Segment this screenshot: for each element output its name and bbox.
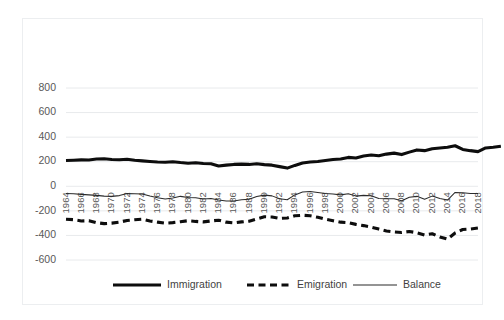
x-tick-2000: 2000 xyxy=(334,192,345,213)
x-tick-2018: 2018 xyxy=(472,192,483,213)
x-tick-1992: 1992 xyxy=(273,192,284,213)
y-tick--400: -400 xyxy=(35,228,56,240)
x-tick-1976: 1976 xyxy=(151,192,162,213)
x-tick-1996: 1996 xyxy=(304,192,315,213)
x-tick-2006: 2006 xyxy=(380,192,391,213)
y-gridlines xyxy=(66,88,478,260)
legend-label-immigration: Immigration xyxy=(167,278,222,290)
y-tick-800: 800 xyxy=(38,81,56,93)
x-tick-2010: 2010 xyxy=(410,192,421,213)
x-tick-2014: 2014 xyxy=(441,192,452,213)
y-tick-400: 400 xyxy=(38,130,56,142)
x-tick-2008: 2008 xyxy=(395,192,406,213)
legend-label-emigration: Emigration xyxy=(297,278,347,290)
series-line-immigration xyxy=(66,146,501,168)
x-tick-1972: 1972 xyxy=(121,192,132,213)
y-tick-200: 200 xyxy=(38,154,56,166)
chart-legend: ImmigrationEmigrationBalance xyxy=(113,278,441,290)
x-tick-1974: 1974 xyxy=(136,192,147,213)
x-tick-1970: 1970 xyxy=(105,192,116,213)
y-tick--600: -600 xyxy=(35,253,56,265)
x-tick-1984: 1984 xyxy=(212,192,223,213)
y-tick-600: 600 xyxy=(38,105,56,117)
x-tick-2016: 2016 xyxy=(456,192,467,213)
x-tick-1964: 1964 xyxy=(60,192,71,213)
y-axis-tick-labels: 8006004002000-200-400-600 xyxy=(35,81,56,265)
y-tick--200: -200 xyxy=(35,204,56,216)
x-tick-1980: 1980 xyxy=(182,192,193,213)
x-tick-1988: 1988 xyxy=(243,192,254,213)
x-tick-1986: 1986 xyxy=(227,192,238,213)
migration-line-chart: 8006004002000-200-400-600 19641966196819… xyxy=(0,0,504,320)
x-tick-2012: 2012 xyxy=(426,192,437,213)
legend-label-balance: Balance xyxy=(403,278,441,290)
x-tick-1966: 1966 xyxy=(75,192,86,213)
y-tick-0: 0 xyxy=(50,179,56,191)
x-tick-1978: 1978 xyxy=(166,192,177,213)
x-tick-1998: 1998 xyxy=(319,192,330,213)
x-tick-1982: 1982 xyxy=(197,192,208,213)
